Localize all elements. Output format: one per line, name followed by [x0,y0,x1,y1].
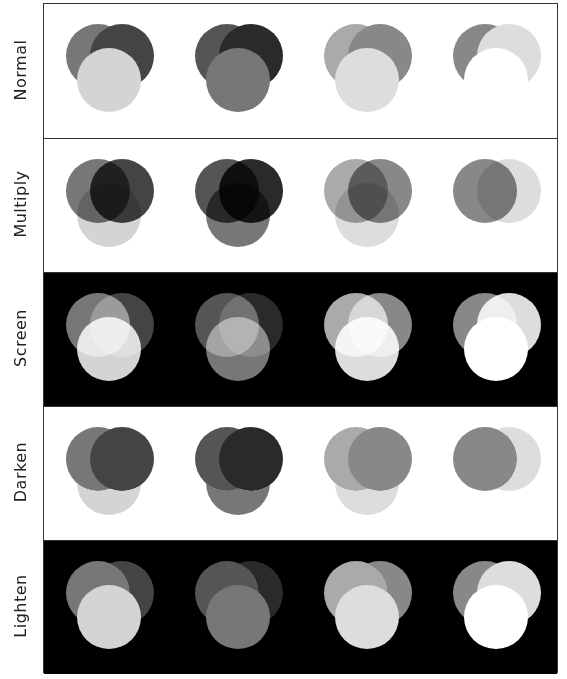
row-label-normal: Normal [11,40,30,101]
row-lighten-plot [44,541,557,674]
row-multiply-plot [44,139,557,272]
circle-bottom [464,585,528,649]
row-label-multiply: Multiply [11,170,30,237]
row-multiply [44,138,557,272]
circle-bottom [206,48,270,112]
row-normal [44,4,557,138]
row-normal-plot [44,4,557,138]
circle-bottom [77,317,141,381]
circle-bottom [335,585,399,649]
circle-bottom [464,451,528,515]
circle-bottom [335,183,399,247]
blend-mode-grid [43,3,558,673]
circle-bottom [77,183,141,247]
circle-bottom [335,451,399,515]
row-darken-plot [44,407,557,540]
circle-bottom [464,183,528,247]
circle-bottom [206,451,270,515]
row-label-screen: Screen [11,309,30,367]
circle-bottom [335,48,399,112]
circle-bottom [206,585,270,649]
row-label-lighten: Lighten [11,574,30,637]
circle-bottom [464,48,528,112]
row-screen-plot [44,273,557,406]
row-label-darken: Darken [11,442,30,502]
circle-bottom [77,585,141,649]
row-darken [44,406,557,540]
circle-bottom [335,317,399,381]
circle-bottom [206,183,270,247]
circle-bottom [77,451,141,515]
row-screen [44,272,557,406]
circle-bottom [464,317,528,381]
row-lighten [44,540,557,674]
circle-bottom [206,317,270,381]
circle-bottom [77,48,141,112]
